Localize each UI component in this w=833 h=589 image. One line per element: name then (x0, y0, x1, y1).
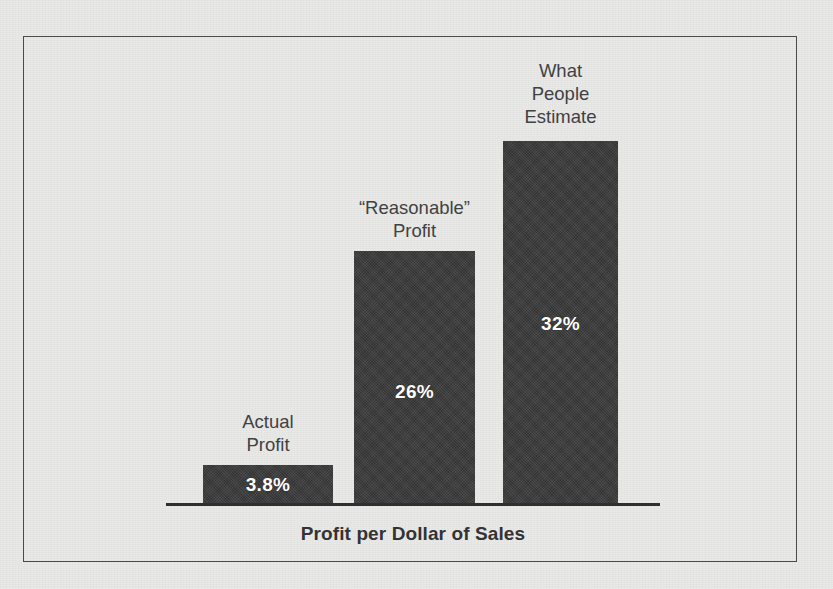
bar-what-people-estimate: 32% (503, 141, 618, 504)
plot-area: 3.8% Actual Profit 26% “Reasonable” Prof… (24, 37, 796, 561)
bar-actual-profit: 3.8% (203, 465, 333, 504)
axis-caption-label: Profit per Dollar of Sales (166, 523, 660, 545)
bar-value-reasonable-profit: 26% (354, 381, 475, 403)
bar-label-reasonable-profit: “Reasonable” Profit (321, 196, 508, 242)
bar-reasonable-profit: 26% (354, 251, 475, 504)
bar-label-what-people-estimate: What People Estimate (503, 59, 618, 128)
figure-frame: 3.8% Actual Profit 26% “Reasonable” Prof… (23, 36, 797, 562)
axis-baseline (166, 503, 660, 506)
bar-label-actual-profit: Actual Profit (203, 410, 333, 456)
bar-value-what-people-estimate: 32% (503, 313, 618, 335)
bar-value-actual-profit: 3.8% (203, 474, 333, 496)
